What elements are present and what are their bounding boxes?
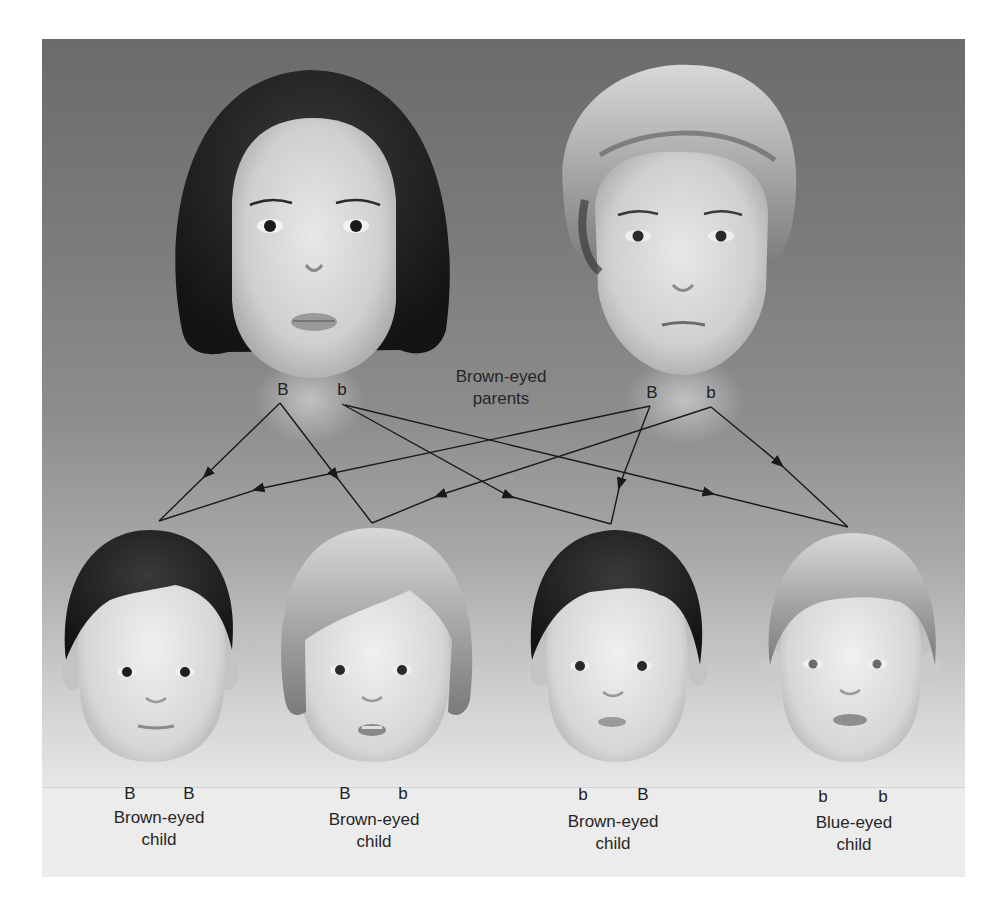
child-4-label: Blue-eyed child	[816, 813, 893, 855]
arrow-mother-b-child3	[342, 404, 611, 524]
child-1-label-line1: Brown-eyed	[114, 808, 205, 828]
child-3-label-line2: child	[568, 834, 659, 854]
child-2-allele-1: B	[339, 784, 350, 804]
child-4-label-line2: child	[816, 835, 893, 855]
child-4-portrait	[766, 533, 939, 762]
child-1-label: Brown-eyed child	[114, 808, 205, 850]
father-allele-1: B	[646, 383, 657, 403]
child-2-label: Brown-eyed child	[329, 810, 420, 852]
child-2-label-line2: child	[329, 832, 420, 852]
child-1-allele-1: B	[124, 784, 135, 804]
mother-allele-1: B	[277, 380, 288, 400]
child-4-label-line1: Blue-eyed	[816, 813, 893, 833]
arrow-father-B-child1	[159, 406, 650, 521]
arrow-mother-b-child4	[345, 405, 848, 527]
illustration	[42, 39, 965, 877]
child-3-label-line1: Brown-eyed	[568, 812, 659, 832]
child-2-label-line1: Brown-eyed	[329, 810, 420, 830]
father-portrait	[562, 65, 796, 445]
child-1-label-line2: child	[114, 830, 205, 850]
child-1-portrait	[62, 530, 238, 762]
child-1-allele-2: B	[183, 784, 194, 804]
arrow-mother-B-child1	[159, 403, 280, 521]
child-4-allele-2: b	[878, 787, 887, 807]
parents-label-line1: Brown-eyed	[456, 367, 547, 387]
diagram-panel: B b B b Brown-eyed parents B B B b b B b…	[42, 39, 965, 877]
child-4-allele-1: b	[818, 787, 827, 807]
father-allele-2: b	[706, 383, 715, 403]
mother-portrait	[175, 70, 449, 445]
child-2-portrait	[281, 528, 472, 762]
mother-allele-2: b	[337, 380, 346, 400]
child-3-portrait	[530, 530, 708, 762]
parents-label-line2: parents	[456, 389, 547, 409]
child-2-allele-2: b	[398, 784, 407, 804]
child-3-allele-1: b	[578, 785, 587, 805]
child-3-label: Brown-eyed child	[568, 812, 659, 854]
parents-label: Brown-eyed parents	[456, 367, 547, 409]
child-3-allele-2: B	[637, 785, 648, 805]
